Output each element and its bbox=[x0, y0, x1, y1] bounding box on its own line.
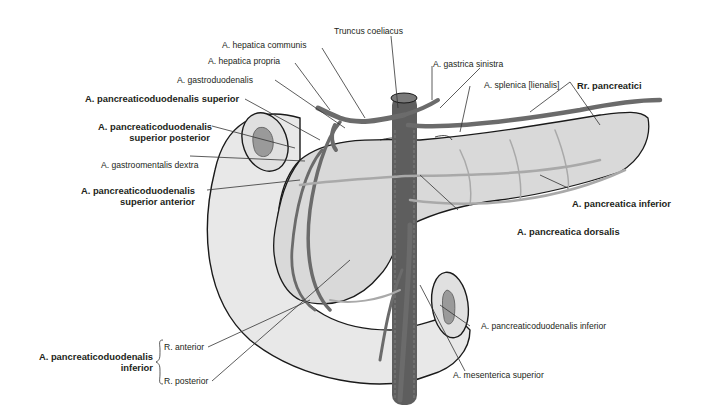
label-gastroduodenalis: A. gastroduodenalis bbox=[177, 75, 253, 85]
label-pd-superior-anterior: A. pancreaticoduodenalis superior anteri… bbox=[80, 185, 195, 207]
label-splenica: A. splenica [lienalis] bbox=[484, 80, 559, 90]
label-pd-superior-anterior-line1: A. pancreaticoduodenalis bbox=[80, 185, 195, 196]
label-pd-inferior-right: A. pancreaticoduodenalis inferior bbox=[481, 321, 606, 331]
label-r-anterior: R. anterior bbox=[164, 342, 204, 352]
label-pd-superior: A. pancreaticoduodenalis superior bbox=[85, 93, 239, 104]
label-pd-superior-anterior-line2: superior anterior bbox=[80, 196, 195, 207]
label-pd-inferior-group-line2: inferior bbox=[30, 362, 153, 373]
label-pd-superior-posterior-line1: A. pancreaticoduodenalis bbox=[98, 121, 210, 132]
label-mesenterica-superior: A. mesenterica superior bbox=[453, 370, 544, 380]
label-r-posterior: R. posterior bbox=[164, 376, 208, 386]
label-pancreatica-inferior: A. pancreatica inferior bbox=[572, 198, 671, 209]
label-pd-superior-posterior: A. pancreaticoduodenalis superior poster… bbox=[98, 121, 210, 143]
anatomical-figure: Truncus coeliacus A. hepatica communis A… bbox=[0, 0, 716, 415]
label-pancreatica-dorsalis: A. pancreatica dorsalis bbox=[517, 226, 620, 237]
label-pd-inferior-group: A. pancreaticoduodenalis inferior bbox=[30, 351, 153, 373]
label-pd-inferior-group-line1: A. pancreaticoduodenalis bbox=[30, 351, 153, 362]
label-gastrica-sinistra: A. gastrica sinistra bbox=[433, 59, 503, 69]
label-hepatica-communis: A. hepatica communis bbox=[222, 40, 307, 50]
label-hepatica-propria: A. hepatica propria bbox=[208, 56, 280, 66]
label-pd-superior-posterior-line2: superior posterior bbox=[98, 132, 210, 143]
label-truncus-coeliacus: Truncus coeliacus bbox=[334, 26, 403, 36]
label-rr-pancreatici: Rr. pancreatici bbox=[577, 80, 642, 91]
label-gastroomentalis-dextra: A. gastroomentalis dextra bbox=[101, 160, 198, 170]
